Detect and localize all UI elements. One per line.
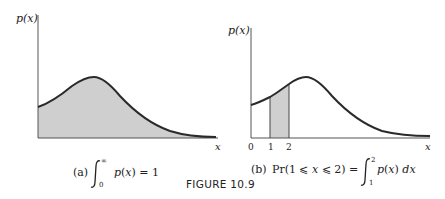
panel-b-tick-0: 0 xyxy=(248,142,254,152)
panel-a-y-label: p(x) xyxy=(16,12,38,25)
panel-a-integral-lower: 0 xyxy=(99,181,103,189)
panel-b-x-label: x xyxy=(425,141,431,152)
panel-b: p(x) 0 1 2 x (b) Pr(1 ⩽ x ⩽ 2) = 2 1 p(x… xyxy=(228,24,431,187)
panel-a-integral-upper: ∞ xyxy=(101,157,107,165)
figure-label: FIGURE 10.9 xyxy=(186,178,255,190)
panel-b-tick-1: 1 xyxy=(268,142,274,152)
panel-b-caption-prefix: (b) xyxy=(251,163,267,176)
panel-b-tick-2: 2 xyxy=(286,142,292,152)
panel-b-caption-expr: p(x) dx xyxy=(377,163,416,176)
panel-a-x-label: x xyxy=(215,141,221,152)
panel-b-caption-lhs: Pr(1 ⩽ x ⩽ 2) = xyxy=(272,163,358,176)
panel-a-caption-prefix: (a) xyxy=(73,166,88,179)
panel-b-integral-lower: 1 xyxy=(369,179,373,187)
panel-b-y-label: p(x) xyxy=(228,24,250,37)
figure-canvas: p(x) x (a) ∞ 0 p(x) = 1 p(x) 0 1 2 x (b)… xyxy=(0,0,445,199)
panel-a-shaded-area xyxy=(38,77,216,138)
panel-a-caption-expr: p(x) = 1 xyxy=(114,166,159,179)
panel-b-integral-upper: 2 xyxy=(371,156,375,164)
panel-a: p(x) x (a) ∞ 0 p(x) = 1 xyxy=(16,12,221,189)
panel-b-shaded-strip xyxy=(270,84,289,138)
